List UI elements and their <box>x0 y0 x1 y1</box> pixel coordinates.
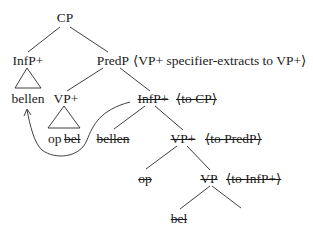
node-vp-low-struck: VP <box>200 171 217 187</box>
branch-infp-bellen <box>114 106 145 129</box>
leaf-bellen-struck: bellen <box>97 131 130 147</box>
vp-plus-low-annotation: ⟨to PredP⟩ <box>205 131 262 147</box>
syntax-tree-diagram: CP InfP+ PredP ⟨VP+ specifier-extracts t… <box>0 0 313 231</box>
leaf-op: op <box>48 131 62 147</box>
branch-vp-bel <box>180 186 210 209</box>
node-cp: CP <box>57 10 74 26</box>
branch-vp-empty <box>212 186 241 208</box>
node-vp-plus-low-struck: VP+ <box>171 131 196 147</box>
branch-cp-predp <box>70 27 108 52</box>
branch-infp-vp <box>155 106 183 130</box>
tree-branches <box>0 0 313 231</box>
leaf-bel-struck: bel <box>64 131 81 147</box>
triangle-vp-plus <box>48 106 80 128</box>
branch-vp-op <box>146 146 177 169</box>
leaf-op-struck: op <box>138 171 152 187</box>
node-predp: PredP <box>97 53 129 69</box>
node-vp-plus: VP+ <box>54 91 79 107</box>
leaf-bellen: bellen <box>12 91 45 107</box>
leaf-bel-low-struck: bel <box>171 211 188 227</box>
predp-annotation: ⟨VP+ specifier-extracts to VP+⟩ <box>133 53 306 69</box>
branch-cp-infp <box>28 27 60 52</box>
vp-low-annotation: ⟨to InfP+⟩ <box>226 171 281 187</box>
branch-predp-infp <box>120 68 150 91</box>
triangle-infp <box>15 68 41 88</box>
node-infp-top: InfP+ <box>13 53 44 69</box>
branch-predp-vp <box>67 68 103 91</box>
branch-vp-vp <box>187 146 210 170</box>
infp-low-annotation: ⟨to CP⟩ <box>176 91 217 107</box>
node-infp-low-struck: InfP+ <box>138 91 169 107</box>
